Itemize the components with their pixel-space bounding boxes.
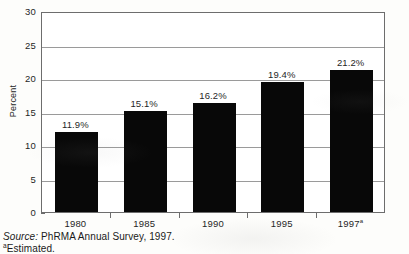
bar bbox=[124, 111, 167, 212]
plot-area bbox=[41, 12, 385, 213]
y-tick-label: 5 bbox=[10, 175, 36, 185]
bar bbox=[193, 103, 236, 212]
footnote: aEstimated. bbox=[3, 243, 55, 254]
y-tick-label: 10 bbox=[10, 141, 36, 151]
source-note: Source: PhRMA Annual Survey, 1997. bbox=[3, 231, 175, 242]
bar bbox=[261, 82, 304, 212]
source-text: PhRMA Annual Survey, 1997. bbox=[41, 231, 175, 242]
footnote-text: Estimated. bbox=[7, 243, 55, 254]
bar-chart: Percent 051015202530 11.9%15.1%16.2%19.4… bbox=[0, 0, 409, 254]
source-label: Source: bbox=[3, 231, 38, 242]
bar bbox=[330, 70, 373, 212]
y-tick-label: 30 bbox=[10, 7, 36, 17]
y-tick-label: 0 bbox=[10, 208, 36, 218]
gridline bbox=[42, 47, 384, 48]
x-tick-mark bbox=[110, 213, 111, 218]
x-tick-mark bbox=[247, 213, 248, 218]
y-tick-label: 25 bbox=[10, 41, 36, 51]
x-tick-label: 1995 bbox=[248, 219, 316, 229]
x-tick-label: 1997a bbox=[317, 219, 385, 229]
x-tick-label: 1990 bbox=[179, 219, 247, 229]
x-tick-mark bbox=[179, 213, 180, 218]
y-tick-label: 15 bbox=[10, 108, 36, 118]
y-tick-label: 20 bbox=[10, 74, 36, 84]
x-tick-label: 1980 bbox=[41, 219, 109, 229]
x-tick-mark bbox=[316, 213, 317, 218]
bar-value-label: 19.4% bbox=[252, 70, 312, 80]
x-tick-label: 1985 bbox=[110, 219, 178, 229]
bar-value-label: 15.1% bbox=[114, 99, 174, 109]
y-tick-mark bbox=[41, 213, 45, 214]
x-tick-label-superscript: a bbox=[360, 218, 364, 224]
bar bbox=[55, 132, 98, 212]
bar-value-label: 11.9% bbox=[45, 120, 105, 130]
bar-value-label: 21.2% bbox=[321, 58, 381, 68]
bar-value-label: 16.2% bbox=[183, 91, 243, 101]
